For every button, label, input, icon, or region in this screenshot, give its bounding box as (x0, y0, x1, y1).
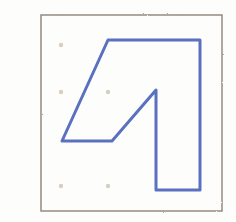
registration-dot (106, 90, 110, 94)
registration-dot (59, 90, 63, 94)
figure-canvas (0, 0, 236, 222)
figure-panel: E (0, 0, 236, 222)
registration-dot (59, 43, 63, 47)
registration-dot (59, 184, 63, 188)
registration-dot (106, 184, 110, 188)
